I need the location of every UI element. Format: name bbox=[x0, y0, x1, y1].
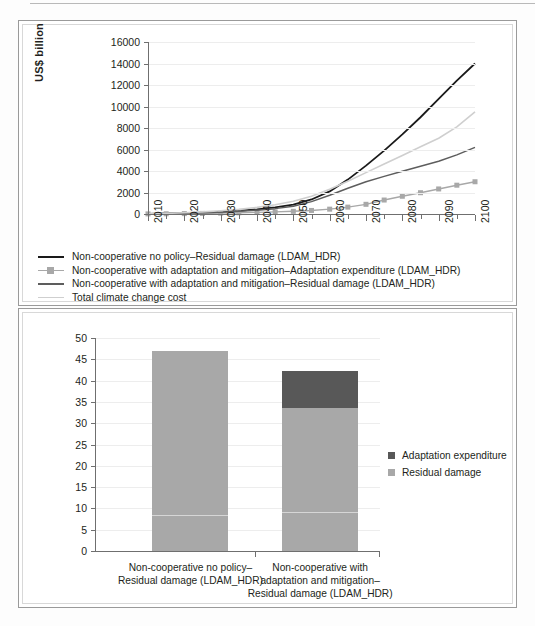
gridline bbox=[148, 85, 475, 86]
y-tick-label: 15 bbox=[47, 482, 87, 492]
x-tick-label: 2030 bbox=[225, 200, 237, 223]
x-tick-mark-major bbox=[439, 215, 440, 221]
y-tick-label: 5 bbox=[47, 525, 87, 535]
bar-segment-residual-damage[interactable] bbox=[282, 408, 358, 551]
gridline bbox=[148, 42, 475, 43]
bar-column[interactable] bbox=[282, 371, 358, 551]
y-tick-label: 4000 bbox=[80, 166, 140, 176]
legend-item-label: Non-cooperative with adaptation and miti… bbox=[72, 265, 460, 276]
x-tick-mark-major bbox=[184, 215, 185, 221]
bar-chart-legend: Adaptation expenditureResidual damage bbox=[388, 447, 507, 481]
legend-item: Non-cooperative with adaptation and miti… bbox=[30, 264, 490, 278]
line-chart-legend: Non-cooperative no policy–Residual damag… bbox=[30, 250, 490, 304]
x-tick-mark-minor bbox=[239, 215, 240, 219]
legend-item-label: Total climate change cost bbox=[72, 292, 186, 303]
y-tick-label: 35 bbox=[47, 397, 87, 407]
y-tick-label: 14000 bbox=[80, 59, 140, 69]
gridline bbox=[148, 150, 475, 151]
x-tick-mark-minor bbox=[384, 215, 385, 219]
line-series-marker bbox=[309, 208, 314, 213]
x-tick-mark-major bbox=[257, 215, 258, 221]
x-tick-mark bbox=[255, 552, 256, 557]
bar-column[interactable] bbox=[152, 351, 228, 551]
x-tick-mark-minor bbox=[421, 215, 422, 219]
gridline bbox=[95, 359, 380, 360]
y-tick-label: 45 bbox=[47, 354, 87, 364]
x-tick-mark bbox=[379, 552, 380, 557]
bar-category-label-line: Residual damage (LDAM_HDR) bbox=[235, 587, 405, 600]
gridline bbox=[148, 128, 475, 129]
y-tick-label: 2000 bbox=[80, 188, 140, 198]
legend-item: Non-cooperative no policy–Residual damag… bbox=[30, 250, 490, 264]
x-tick-label: 2060 bbox=[334, 200, 346, 223]
y-tick-label: 50 bbox=[47, 333, 87, 343]
y-axis-line bbox=[95, 338, 96, 551]
y-tick-label: 12000 bbox=[80, 80, 140, 90]
legend-marker-swatch bbox=[47, 267, 54, 274]
line-series-marker bbox=[473, 179, 478, 184]
bar-segment-residual-damage[interactable] bbox=[152, 351, 228, 551]
y-tick-label: 25 bbox=[47, 440, 87, 450]
legend-item-label: Adaptation expenditure bbox=[402, 450, 507, 461]
x-tick-label: 2040 bbox=[261, 200, 273, 223]
legend-item-label: Non-cooperative with adaptation and miti… bbox=[72, 278, 435, 289]
line-series-marker bbox=[327, 207, 332, 212]
gridline bbox=[148, 171, 475, 172]
legend-item-label: Non-cooperative no policy–Residual damag… bbox=[72, 251, 340, 262]
y-tick-label: 40 bbox=[47, 376, 87, 386]
bar-internal-hairline bbox=[152, 515, 228, 516]
line-series-marker bbox=[382, 198, 387, 203]
x-tick-label: 2010 bbox=[152, 200, 164, 223]
x-tick-label: 2050 bbox=[297, 200, 309, 223]
x-tick-label: 2080 bbox=[406, 200, 418, 223]
y-tick-label: 10 bbox=[47, 503, 87, 513]
legend-line-swatch bbox=[38, 297, 64, 299]
y-tick-label: 0 bbox=[47, 546, 87, 556]
y-tick-label: 20 bbox=[47, 461, 87, 471]
x-tick-label: 2070 bbox=[370, 200, 382, 223]
line-series-marker bbox=[454, 183, 459, 188]
bar-category-label-line: adaptation and mitigation– bbox=[235, 574, 405, 587]
x-tick-mark-major bbox=[221, 215, 222, 221]
bar-segment-adaptation-expenditure[interactable] bbox=[282, 371, 358, 408]
x-tick-mark-major bbox=[330, 215, 331, 221]
bar-plot-area: 05101520253035404550 bbox=[95, 338, 380, 551]
gridline bbox=[148, 107, 475, 108]
line-series-marker bbox=[345, 205, 350, 210]
y-tick-label: 10000 bbox=[80, 102, 140, 112]
y-tick-label: 30 bbox=[47, 418, 87, 428]
legend-item-label: Residual damage bbox=[402, 467, 481, 478]
x-tick-mark-minor bbox=[312, 215, 313, 219]
y-tick-label: 6000 bbox=[80, 145, 140, 155]
x-tick-mark-minor bbox=[275, 215, 276, 219]
line-plot-area: 0200040006000800010000120001400016000 bbox=[148, 42, 475, 214]
x-tick-mark-major bbox=[402, 215, 403, 221]
legend-item: Total climate change cost bbox=[30, 291, 490, 305]
y-axis-line bbox=[148, 42, 149, 214]
legend-line-swatch bbox=[38, 256, 64, 258]
legend-item: Non-cooperative with adaptation and miti… bbox=[30, 277, 490, 291]
gridline bbox=[95, 338, 380, 339]
legend-item: Residual damage bbox=[388, 464, 507, 481]
line-series-marker bbox=[400, 194, 405, 199]
line-series-marker bbox=[436, 186, 441, 191]
x-tick-label: 2020 bbox=[188, 200, 200, 223]
y-tick-label: 0 bbox=[80, 209, 140, 219]
gridline bbox=[148, 64, 475, 65]
legend-line-swatch bbox=[38, 283, 64, 285]
x-tick-mark-minor bbox=[457, 215, 458, 219]
x-axis-line bbox=[95, 551, 380, 552]
bar-category-label-line: Non-cooperative with bbox=[235, 561, 405, 574]
bar-internal-hairline bbox=[282, 512, 358, 513]
gridline bbox=[148, 193, 475, 194]
x-tick-label: 2100 bbox=[479, 200, 491, 223]
y-axis-title-top: US$ billion bbox=[33, 23, 45, 82]
figure-page: US$ billion 0200040006000800010000120001… bbox=[0, 0, 535, 626]
x-tick-mark-major bbox=[293, 215, 294, 221]
x-tick-mark-minor bbox=[203, 215, 204, 219]
legend-color-swatch bbox=[388, 469, 395, 476]
legend-item: Adaptation expenditure bbox=[388, 447, 507, 464]
x-tick-mark-minor bbox=[166, 215, 167, 219]
bar-category-label: Non-cooperative withadaptation and mitig… bbox=[235, 561, 405, 600]
x-tick-mark-major bbox=[366, 215, 367, 221]
